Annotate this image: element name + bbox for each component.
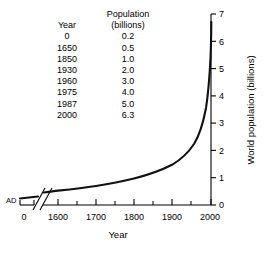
y-axis-tick-labels: 0 1 2 3 4 5 6 7 xyxy=(219,9,224,210)
axis-break-slash-1 xyxy=(33,188,45,210)
x-axis-tick-labels: 0 1600 1700 1800 1900 2000 xyxy=(21,212,220,222)
y-tick-label-6: 6 xyxy=(219,37,224,47)
y-tick-label-0: 0 xyxy=(219,200,224,210)
y-tick-label-5: 5 xyxy=(219,64,224,74)
y-axis-title: World population (billions) xyxy=(245,55,256,164)
x-axis-title: Year xyxy=(108,229,127,240)
x-tick-label-1900: 1900 xyxy=(162,212,182,222)
chart-plot-area: 0 1 2 3 4 5 6 7 World population (billio… xyxy=(0,0,276,254)
x-tick-label-1700: 1700 xyxy=(86,212,106,222)
y-tick-label-2: 2 xyxy=(219,146,224,156)
population-curve xyxy=(44,22,211,193)
y-tick-label-3: 3 xyxy=(219,118,224,128)
era-label-ad: AD xyxy=(6,196,17,205)
y-tick-label-4: 4 xyxy=(219,91,224,101)
x-tick-label-0: 0 xyxy=(21,212,26,222)
x-tick-label-1800: 1800 xyxy=(124,212,144,222)
x-tick-label-2000: 2000 xyxy=(200,212,220,222)
x-tick-label-1600: 1600 xyxy=(48,212,68,222)
y-tick-label-7: 7 xyxy=(219,9,224,19)
population-curve-prebreak xyxy=(20,197,38,199)
y-tick-label-1: 1 xyxy=(219,173,224,183)
population-growth-figure: Population Year (billions) 0 0.2 1650 0.… xyxy=(0,0,276,254)
